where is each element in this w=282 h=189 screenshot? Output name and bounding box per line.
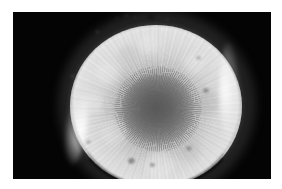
- droplet-top-4: [147, 13, 155, 20]
- figure-photograph: Grayscale photograph of a round Petri di…: [0, 0, 282, 189]
- droplet-bottom-2: [150, 163, 155, 167]
- droplet-lower-left: [86, 140, 91, 144]
- droplet-right-edge: [203, 88, 209, 93]
- droplet-top-3: [133, 16, 137, 19]
- dish-wall-shadow-outer: [71, 20, 241, 179]
- droplet-bottom-1: [128, 158, 135, 164]
- droplet-top-1: [114, 17, 120, 22]
- droplet-left-edge: [70, 74, 76, 79]
- droplet-upper-left: [95, 30, 100, 34]
- photo-canvas: [13, 12, 271, 179]
- droplet-bottom-3: [186, 146, 192, 151]
- droplet-top-5: [165, 18, 170, 22]
- droplet-right-upper: [196, 56, 201, 60]
- droplet-top-2: [124, 14, 129, 18]
